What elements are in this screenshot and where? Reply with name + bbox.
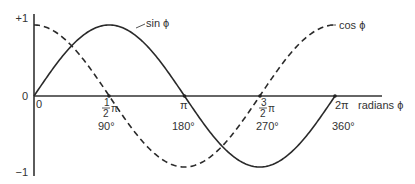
x-tick-label-two-pi: 2π [335, 99, 349, 111]
x-tick-half-pi-denominator: 2 [103, 108, 109, 119]
x-tick-label-270: 270° [256, 120, 279, 132]
x-tick-half-pi-numerator: 1 [104, 97, 110, 108]
x-axis-label: radians ϕ [358, 99, 403, 111]
x-tick-half-pi-symbol: π [111, 103, 118, 114]
x-tick-three-half-pi-numerator: 3 [261, 97, 267, 108]
sine-cosine-chart: +1 0 −1 0 1 2 π 90° π 180° 3 2 π 270° 2π… [0, 0, 415, 184]
y-tick-label-bottom: −1 [15, 166, 28, 178]
tick-dot-pi [183, 94, 187, 98]
x-tick-label-90: 90° [98, 120, 115, 132]
x-tick-label-360: 360° [332, 120, 355, 132]
y-tick-label-top: +1 [15, 12, 28, 24]
x-tick-three-half-pi-symbol: π [268, 103, 275, 114]
y-tick-label-zero: 0 [22, 90, 28, 102]
tick-dot-two-pi [333, 94, 337, 98]
sin-label-leader [136, 24, 145, 28]
x-tick-three-half-pi-denominator: 2 [260, 108, 266, 119]
cos-label: cos ϕ [339, 19, 365, 31]
x-tick-label-180: 180° [172, 120, 195, 132]
x-tick-label-zero: 0 [36, 98, 42, 110]
x-tick-label-pi: π [180, 99, 188, 111]
sin-label: sin ϕ [146, 17, 169, 29]
